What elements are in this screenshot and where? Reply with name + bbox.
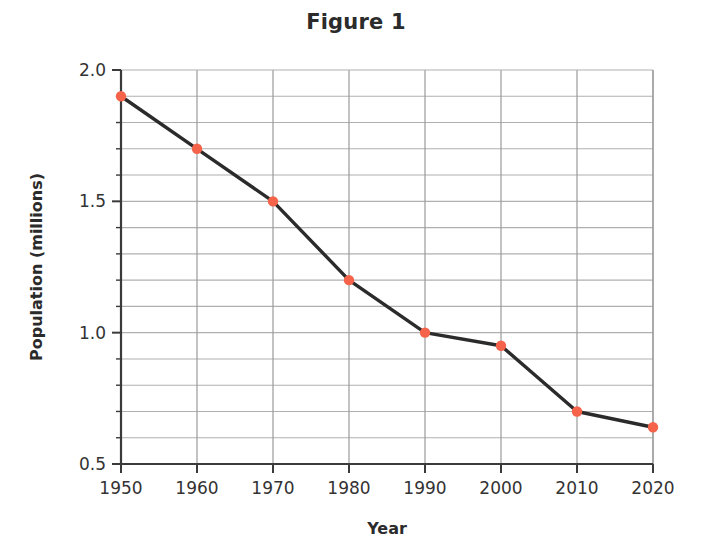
y-axis-title: Population (millions) [27, 173, 46, 361]
x-axis-title: Year [366, 519, 407, 538]
data-point-marker [344, 275, 354, 285]
data-point-marker [192, 144, 202, 154]
y-tick-label: 1.0 [79, 323, 106, 343]
line-chart-plot: 2.01.51.00.5 195019601970198019902000201… [0, 0, 712, 560]
y-tick-label: 0.5 [79, 454, 106, 474]
data-point-marker [116, 91, 126, 101]
data-point-marker [496, 341, 506, 351]
x-tick-label: 1970 [251, 478, 294, 498]
data-point-marker [648, 422, 658, 432]
y-tick-label: 1.5 [79, 191, 106, 211]
data-point-marker [572, 406, 582, 416]
x-tick-label: 2000 [479, 478, 522, 498]
y-tick-label: 2.0 [79, 60, 106, 80]
x-tick-label: 1990 [403, 478, 446, 498]
x-axis-tick-labels: 19501960197019801990200020102020 [99, 478, 674, 498]
x-tick-label: 1960 [175, 478, 218, 498]
x-tick-label: 2010 [555, 478, 598, 498]
x-tick-label: 1950 [99, 478, 142, 498]
axis-lines [121, 70, 653, 464]
vertical-gridlines [197, 70, 653, 464]
x-tick-label: 2020 [631, 478, 674, 498]
y-axis-ticks [112, 70, 121, 464]
data-point-marker [420, 327, 430, 337]
x-tick-label: 1980 [327, 478, 370, 498]
x-axis-ticks [121, 464, 653, 473]
y-axis-tick-labels: 2.01.51.00.5 [79, 60, 106, 474]
data-point-marker [268, 196, 278, 206]
figure-container: Figure 1 2.01.51.00.5 195019601970198019… [0, 0, 712, 560]
